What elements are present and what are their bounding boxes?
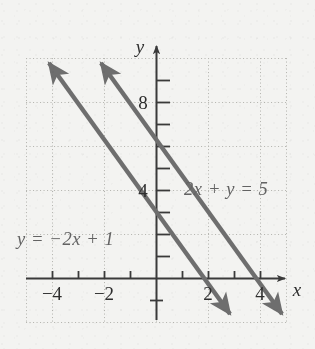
x-tick-label-minus-4: −4 xyxy=(42,283,63,304)
x-tick-label-minus-2: −2 xyxy=(94,283,114,304)
x-axis-label: x xyxy=(292,279,302,300)
equation-label-2x-plus-y-equals-5: 2x + y = 5 xyxy=(184,179,268,199)
coordinate-plane-svg: y x −4 −2 2 4 4 8 2x + y = 5 y = −2x + 1 xyxy=(0,0,315,349)
x-tick-label-2: 2 xyxy=(203,283,213,304)
graph-figure: y x −4 −2 2 4 4 8 2x + y = 5 y = −2x + 1 xyxy=(0,0,315,349)
y-tick-label-4: 4 xyxy=(138,180,148,201)
equation-label-y-equals-minus-2x-plus-1: y = −2x + 1 xyxy=(15,229,114,249)
x-tick-label-4: 4 xyxy=(255,283,265,304)
y-axis-label: y xyxy=(134,36,145,57)
y-tick-label-8: 8 xyxy=(138,92,148,113)
